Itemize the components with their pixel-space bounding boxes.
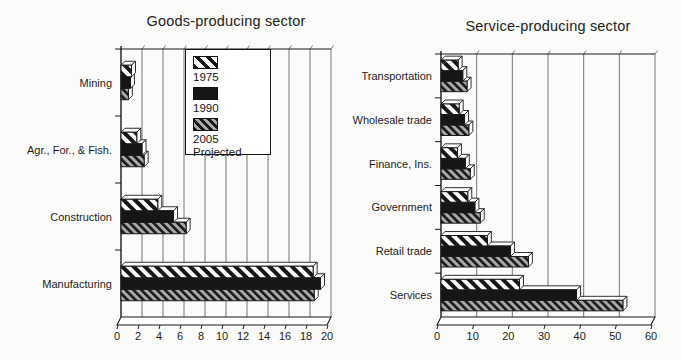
bar-1975 bbox=[441, 100, 463, 115]
bar-1975 bbox=[121, 61, 136, 77]
x-axis-ticks-labels: 02468101214161820 bbox=[114, 325, 333, 342]
category-label: Finance, Ins. bbox=[369, 158, 432, 170]
legend-item-2005: 2005 Projected bbox=[193, 118, 270, 159]
bar-group-government bbox=[441, 188, 484, 224]
x-tick-label: 40 bbox=[574, 330, 586, 342]
category-label: Manufacturing bbox=[42, 278, 112, 290]
x-axis-ticks-labels: 0102030405060 bbox=[434, 325, 657, 342]
bar-group-mining bbox=[121, 61, 136, 100]
category-label: Construction bbox=[50, 211, 112, 223]
x-tick-label: 2 bbox=[135, 330, 141, 342]
goods-chart-title: Goods-producing sector bbox=[111, 13, 341, 29]
x-tick-label: 20 bbox=[321, 330, 333, 342]
legend: 1975 1990 2005 Projected bbox=[185, 49, 271, 155]
bar-1975 bbox=[121, 195, 162, 211]
legend-swatch-1990-solid bbox=[193, 87, 218, 100]
x-tick-label: 10 bbox=[216, 330, 228, 342]
bar-1975 bbox=[121, 128, 141, 144]
goods-chart-plot: 02468101214161820MiningAgr., For., & Fis… bbox=[0, 0, 345, 360]
bar-group-transportation bbox=[441, 56, 471, 91]
service-chart-plot: 0102030405060TransportationWholesale tra… bbox=[345, 0, 681, 360]
bar-group-wholesale-trade bbox=[441, 100, 473, 136]
bar-group-services bbox=[441, 275, 627, 311]
legend-swatch-2005-hatch bbox=[193, 118, 218, 131]
x-tick-label: 10 bbox=[467, 330, 479, 342]
x-tick-label: 4 bbox=[156, 330, 162, 342]
bar-group-finance-ins bbox=[441, 144, 474, 180]
x-tick-label: 60 bbox=[645, 330, 657, 342]
category-label: Mining bbox=[80, 77, 112, 89]
x-tick-label: 12 bbox=[237, 330, 249, 342]
legend-swatch-1975-hatch bbox=[193, 56, 218, 69]
goods-producing-chart: 02468101214161820MiningAgr., For., & Fis… bbox=[0, 0, 345, 360]
page: 02468101214161820MiningAgr., For., & Fis… bbox=[0, 0, 681, 360]
x-tick-label: 16 bbox=[279, 330, 291, 342]
bar-1975 bbox=[441, 188, 472, 203]
category-label: Wholesale trade bbox=[353, 114, 433, 126]
x-axis-base bbox=[437, 317, 655, 325]
x-tick-label: 6 bbox=[177, 330, 183, 342]
service-producing-chart: 0102030405060TransportationWholesale tra… bbox=[345, 0, 681, 360]
bar-1975 bbox=[121, 262, 317, 278]
x-tick-label: 0 bbox=[114, 330, 120, 342]
x-tick-label: 20 bbox=[502, 330, 514, 342]
x-tick-label: 0 bbox=[434, 330, 440, 342]
x-tick-label: 8 bbox=[198, 330, 204, 342]
bar-group-agr-for-fish bbox=[121, 128, 148, 167]
category-boundary-ticks bbox=[115, 49, 121, 250]
bar-group-manufacturing bbox=[121, 262, 325, 301]
x-axis-base bbox=[117, 317, 331, 325]
category-label: Transportation bbox=[361, 70, 432, 82]
category-label: Retail trade bbox=[376, 245, 432, 257]
x-tick-label: 50 bbox=[609, 330, 621, 342]
legend-item-1990: 1990 bbox=[193, 87, 270, 115]
legend-label-2005: 2005 Projected bbox=[193, 133, 270, 159]
legend-item-1975: 1975 bbox=[193, 56, 270, 84]
bar-1975 bbox=[441, 275, 523, 290]
bar-1975 bbox=[441, 232, 491, 247]
category-label: Agr., For., & Fish. bbox=[27, 144, 112, 156]
service-chart-title: Service-producing sector bbox=[431, 18, 665, 34]
legend-label-1975: 1975 bbox=[193, 71, 270, 84]
bar-1975 bbox=[441, 56, 462, 71]
category-label: Services bbox=[390, 289, 433, 301]
x-tick-label: 18 bbox=[300, 330, 312, 342]
x-tick-label: 14 bbox=[258, 330, 270, 342]
bar-group-retail-trade bbox=[441, 232, 532, 268]
category-boundary-ticks bbox=[435, 54, 441, 273]
bar-1975 bbox=[441, 144, 461, 159]
x-tick-label: 30 bbox=[538, 330, 550, 342]
legend-label-1990: 1990 bbox=[193, 102, 270, 115]
category-label: Government bbox=[371, 201, 432, 213]
bar-group-construction bbox=[121, 195, 190, 234]
